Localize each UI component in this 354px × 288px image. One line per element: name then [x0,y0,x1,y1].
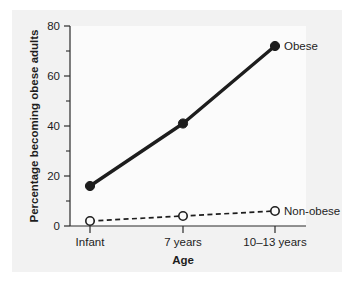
x-axis-title: Age [172,254,194,266]
plot-area-background [70,26,306,226]
y-tick-label-0: 0 [54,220,60,232]
y-tick-label-60: 60 [47,70,60,82]
data-point-obese-infant [85,181,94,190]
y-tick-label-20: 20 [47,170,60,182]
data-point-non-obese-10-13-years [271,207,279,215]
x-tick-label-infant: Infant [76,236,106,248]
figure-container: 80 60 40 20 0 Infant 7 years 10–13 years… [0,0,354,288]
x-tick-label-7-years: 7 years [164,236,202,248]
data-point-non-obese-infant [86,217,94,225]
y-tick-label-80: 80 [47,20,60,32]
series-label-obese: Obese [284,40,318,52]
series-label-non-obese: Non-obese [284,205,340,217]
data-point-non-obese-7-years [179,212,187,220]
line-chart: 80 60 40 20 0 Infant 7 years 10–13 years… [0,0,354,288]
data-point-obese-7-years [178,119,187,128]
data-point-obese-10-13-years [270,41,279,50]
y-axis-title: Percentage becoming obese adults [28,29,40,222]
y-tick-label-40: 40 [47,120,60,132]
x-tick-label-10-13-years: 10–13 years [243,236,307,248]
